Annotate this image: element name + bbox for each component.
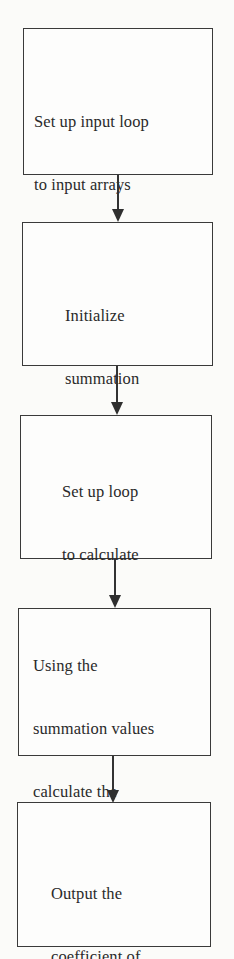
text-line: coefficient of [51,946,141,959]
step-summation-loop: Set up loop to calculate the various sum… [20,415,212,559]
step-calculate: Using the summation values calculate the… [18,608,211,756]
step-output: Output the coefficient of correlation [17,802,211,947]
text-line: Set up loop [62,481,143,502]
arrow-shaft-3 [114,559,116,598]
arrow-head-2-icon [111,402,123,415]
text-line: Using the [33,655,154,676]
arrow-shaft-4 [112,756,114,793]
text-line: to input arrays [34,174,151,195]
text-line: summation [65,368,139,389]
arrow-head-3-icon [109,595,121,608]
text-line: to calculate [62,544,143,565]
arrow-shaft-1 [117,175,119,212]
arrow-shaft-2 [116,366,118,405]
text-line: Initialize [65,305,139,326]
step-initialize: Initialize summation variables [22,222,213,366]
step-input-loop: Set up input loop to input arrays of X a… [23,28,213,175]
text-line: Set up input loop [34,111,151,132]
text-line: Output the [51,883,141,904]
text-line: summation values [33,718,154,739]
arrow-head-1-icon [112,209,124,222]
step-output-text: Output the coefficient of correlation [51,841,141,959]
text-line: calculate the [33,781,154,802]
